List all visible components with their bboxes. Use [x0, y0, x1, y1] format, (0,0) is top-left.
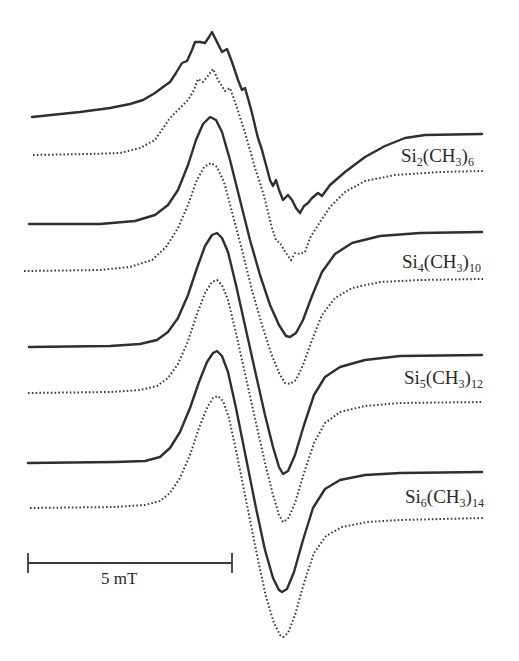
series-si2-experimental: [32, 32, 482, 213]
series-si4-simulated: [24, 163, 483, 384]
label-si6: Si6(CH3)14: [405, 487, 484, 506]
label-si4: Si4(CH3)10: [402, 252, 481, 271]
epr-spectra-figure: Si2(CH3)6 Si4(CH3)10 Si5(CH3)12 Si6(CH3)…: [0, 0, 519, 661]
spectra-plot: [0, 0, 519, 661]
scale-bar-label: 5 mT: [101, 569, 137, 589]
label-si2: Si2(CH3)6: [401, 146, 474, 165]
label-si5: Si5(CH3)12: [404, 368, 483, 387]
series-si6-simulated: [30, 396, 483, 637]
